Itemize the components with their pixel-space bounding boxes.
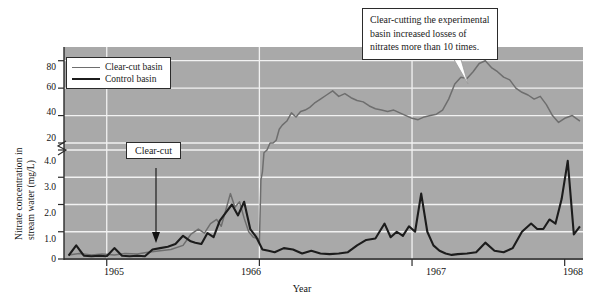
axis-ticks [58, 61, 565, 266]
callout-line-2: basin increased losses of [370, 27, 490, 41]
legend-swatch-clear-cut-icon [72, 67, 100, 68]
callout-line-1: Clear-cutting the experimental [370, 13, 490, 27]
legend-label-clear-cut: Clear-cut basin [105, 61, 163, 73]
chart-figure: Nitrate concentration in stream water (m… [0, 0, 604, 299]
legend-item-clear-cut: Clear-cut basin [72, 61, 163, 73]
chart-canvas [0, 0, 604, 299]
callout-line-3: nitrates more than 10 times. [370, 40, 490, 54]
callout-box: Clear-cutting the experimental basin inc… [362, 8, 498, 60]
legend-label-control: Control basin [105, 73, 156, 85]
legend-swatch-control-icon [72, 78, 100, 80]
chart-legend: Clear-cut basin Control basin [66, 57, 171, 89]
clear-cut-marker-box: Clear-cut [126, 142, 181, 159]
series-line-control-basin [69, 161, 580, 256]
legend-item-control: Control basin [72, 73, 163, 85]
